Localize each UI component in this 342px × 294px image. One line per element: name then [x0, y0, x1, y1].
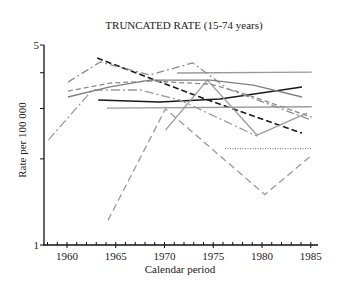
x-tick-label: 1975 — [202, 250, 225, 262]
y-tick-label-1: 1 — [34, 239, 40, 251]
chart-title: TRUNCATED RATE (15-74 years) — [105, 19, 263, 32]
data-series-line — [108, 109, 312, 220]
data-series-line — [68, 80, 302, 97]
x-tick-label: 1960 — [56, 250, 79, 262]
x-tick-label: 1970 — [154, 250, 177, 262]
line-chart: TRUNCATED RATE (15-74 years) 5 1 1960 19… — [0, 0, 342, 294]
y-tick-label-5: 5 — [34, 39, 40, 51]
x-tick-label: 1985 — [300, 250, 323, 262]
x-tick-label: 1965 — [105, 250, 128, 262]
x-axis-label: Calendar period — [145, 263, 216, 275]
x-tick-label: 1980 — [251, 250, 274, 262]
data-series-line — [68, 81, 312, 117]
plot-area — [49, 58, 312, 220]
y-axis-label: Rate per 100 000 — [16, 102, 28, 178]
data-series-line — [177, 72, 312, 73]
x-axis-tick-labels: 1960 1965 1970 1975 1980 1985 — [56, 250, 322, 262]
